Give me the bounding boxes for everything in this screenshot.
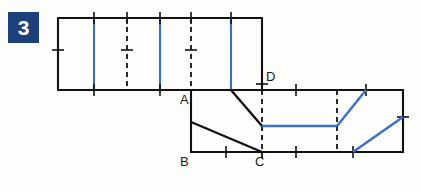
vertex-label-c: C [255,155,264,168]
vertex-label-b: B [180,155,189,168]
blue-diagonal-up-right [337,90,366,126]
upper-band-group [58,18,262,90]
lower-band-ticks [226,84,409,158]
vertex-label-a: A [180,93,189,106]
figure-screenshot: 3 [0,0,421,193]
lower-band-outline [191,90,403,152]
black-diagonal-folds [191,90,262,152]
blue-diagonal-far-right [353,117,403,152]
diagonal-upper-to-lower [231,90,262,126]
blue-diagonal-folds [262,90,403,152]
vertex-label-d: D [266,70,275,83]
upper-band-ticks [52,12,231,96]
geometry-figure [0,0,421,193]
